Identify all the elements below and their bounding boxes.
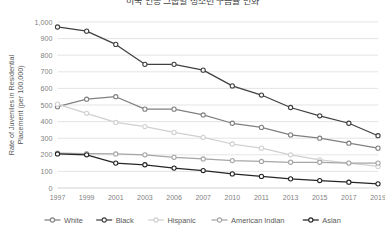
x-axis-tick-label: 2011 <box>254 194 269 201</box>
data-point-marker <box>259 146 263 150</box>
data-point-marker <box>347 141 351 145</box>
data-point-marker <box>347 121 351 125</box>
data-point-marker <box>143 62 147 66</box>
data-point-marker <box>376 161 380 165</box>
data-point-marker <box>318 136 322 140</box>
x-axis-tick-label: 2019 <box>370 194 385 201</box>
data-point-marker <box>376 146 380 150</box>
legend-label: White <box>64 216 83 225</box>
data-point-marker <box>85 29 89 33</box>
data-point-marker <box>347 180 351 184</box>
legend-label: American Indian <box>231 216 284 225</box>
y-axis-tick-label: 500 <box>41 101 53 110</box>
data-point-marker <box>172 155 176 159</box>
legend-label: Hispanic <box>167 216 196 225</box>
data-point-marker <box>288 105 292 109</box>
series-asian <box>55 152 380 186</box>
legend-item-white[interactable]: White <box>44 216 82 225</box>
series-hispanic <box>55 102 380 168</box>
data-point-marker <box>376 182 380 186</box>
data-point-marker <box>201 113 205 117</box>
data-point-marker <box>288 133 292 137</box>
series-white <box>55 95 380 151</box>
legend-marker <box>154 218 158 222</box>
x-axis-ticks-group: 1997199920012003200620072010201120132015… <box>50 194 385 201</box>
data-point-marker <box>172 62 176 66</box>
x-axis-tick-label: 2017 <box>341 194 357 201</box>
data-point-marker <box>230 159 234 163</box>
series-black <box>55 25 380 138</box>
chart-legend: WhiteBlackHispanicAmerican IndianAsian <box>44 216 340 225</box>
legend-item-american-indian[interactable]: American Indian <box>212 216 285 225</box>
legend-item-black[interactable]: Black <box>96 216 134 225</box>
data-point-marker <box>114 161 118 165</box>
y-axis-tick-label: 1,000 <box>35 18 53 27</box>
data-point-marker <box>55 152 59 156</box>
y-axis-label-group: Rate of Juveniles in ResidentialPlacemen… <box>7 54 25 155</box>
data-point-marker <box>230 142 234 146</box>
legend-item-hispanic[interactable]: Hispanic <box>148 216 196 225</box>
data-point-marker <box>143 107 147 111</box>
data-point-marker <box>318 160 322 164</box>
data-point-marker <box>259 159 263 163</box>
data-point-marker <box>85 97 89 101</box>
data-point-marker <box>201 135 205 139</box>
data-point-marker <box>347 161 351 165</box>
series-american-indian <box>55 151 380 165</box>
x-axis-tick-label: 2001 <box>108 194 124 201</box>
legend-marker <box>309 218 313 222</box>
x-axis-tick-label: 2006 <box>166 194 182 201</box>
x-axis-tick-label: 2010 <box>225 194 241 201</box>
y-axis-ticks-group: 01002003004005006007008009001,000 <box>35 18 53 193</box>
y-axis-tick-label: 100 <box>41 167 53 176</box>
y-axis-tick-label: 700 <box>41 67 53 76</box>
legend-label: Asian <box>322 216 341 225</box>
x-axis-tick-label: 2015 <box>312 194 328 201</box>
data-point-marker <box>259 174 263 178</box>
chart-plot: 01002003004005006007008009001,000 Rate o… <box>0 0 385 232</box>
data-point-marker <box>376 134 380 138</box>
data-point-marker <box>288 160 292 164</box>
x-axis-tick-label: 1997 <box>50 194 66 201</box>
data-point-marker <box>143 153 147 157</box>
data-point-marker <box>201 168 205 172</box>
legend-marker <box>50 218 54 222</box>
data-point-marker <box>230 84 234 88</box>
data-point-marker <box>172 107 176 111</box>
y-axis-tick-label: 300 <box>41 134 53 143</box>
data-point-marker <box>114 95 118 99</box>
data-point-marker <box>85 111 89 115</box>
data-point-marker <box>114 152 118 156</box>
series-line <box>58 154 379 184</box>
data-point-marker <box>259 125 263 129</box>
data-point-marker <box>318 178 322 182</box>
y-axis-tick-label: 0 <box>49 184 53 193</box>
y-axis-label-line2: Placement (per 100,000) <box>16 65 25 144</box>
y-axis-label: Rate of Juveniles in Residential <box>7 54 16 155</box>
x-axis-tick-label: 1999 <box>79 194 95 201</box>
series-group <box>55 25 380 186</box>
data-point-marker <box>201 157 205 161</box>
data-point-marker <box>201 68 205 72</box>
y-axis-tick-label: 400 <box>41 117 53 126</box>
data-point-marker <box>172 130 176 134</box>
data-point-marker <box>288 153 292 157</box>
data-point-marker <box>230 121 234 125</box>
chart-container: 미국 인종 그룹별 청소년 구금률 변화 0100200300400500600… <box>0 0 385 232</box>
x-axis-tick-label: 2013 <box>283 194 299 201</box>
legend-item-asian[interactable]: Asian <box>303 216 341 225</box>
data-point-marker <box>85 153 89 157</box>
y-axis-tick-label: 800 <box>41 51 53 60</box>
data-point-marker <box>114 42 118 46</box>
data-point-marker <box>259 93 263 97</box>
data-point-marker <box>288 177 292 181</box>
y-axis-tick-label: 200 <box>41 150 53 159</box>
x-axis-tick-label: 2007 <box>195 194 211 201</box>
data-point-marker <box>172 166 176 170</box>
data-point-marker <box>55 25 59 29</box>
x-axis-tick-label: 2003 <box>137 194 153 201</box>
y-axis-tick-label: 900 <box>41 34 53 43</box>
data-point-marker <box>143 124 147 128</box>
legend-label: Black <box>116 216 134 225</box>
data-point-marker <box>230 172 234 176</box>
